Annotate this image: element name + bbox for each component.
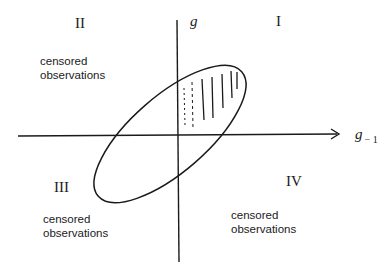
vertical-axis	[177, 20, 179, 262]
quadrant-label-II: II	[75, 16, 85, 31]
horizontal-axis-label-text: g	[355, 126, 363, 142]
horizontal-axis-subscript: − 1	[365, 134, 378, 145]
note-line: observations	[43, 227, 108, 241]
vertical-axis-label-text: g	[190, 13, 198, 29]
note-line: censored	[43, 213, 108, 227]
horizontal-axis	[18, 134, 337, 136]
quadrant-label-III: III	[54, 180, 69, 195]
note-line: observations	[231, 223, 296, 237]
quadrant-III-note: censored observations	[43, 213, 108, 240]
quadrant-II-note: censored observations	[40, 55, 105, 82]
horizontal-axis-label: g− 1	[355, 127, 378, 142]
quadrant-label-I: I	[276, 14, 281, 29]
note-line: censored	[231, 209, 296, 223]
note-line: censored	[40, 55, 105, 69]
vertical-axis-label: g	[190, 14, 198, 29]
quadrant-IV-note: censored observations	[231, 209, 296, 236]
quadrant-diagram: g g− 1 I II III IV censored observations…	[0, 0, 391, 269]
shaded-region	[184, 71, 237, 128]
note-line: observations	[40, 69, 105, 83]
quadrant-label-IV: IV	[286, 174, 302, 189]
